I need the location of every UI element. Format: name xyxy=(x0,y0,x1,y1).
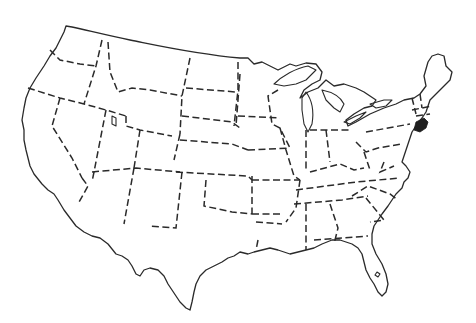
great-salt-lake xyxy=(112,116,116,126)
highlighted-state-new-jersey[interactable] xyxy=(414,118,428,132)
us-outline xyxy=(22,26,452,310)
lake-okeechobee xyxy=(375,272,380,277)
lake-huron xyxy=(322,90,344,112)
lake-michigan xyxy=(302,92,313,132)
state-borders xyxy=(28,40,432,250)
us-map xyxy=(0,0,476,323)
us-map-svg xyxy=(0,0,476,323)
